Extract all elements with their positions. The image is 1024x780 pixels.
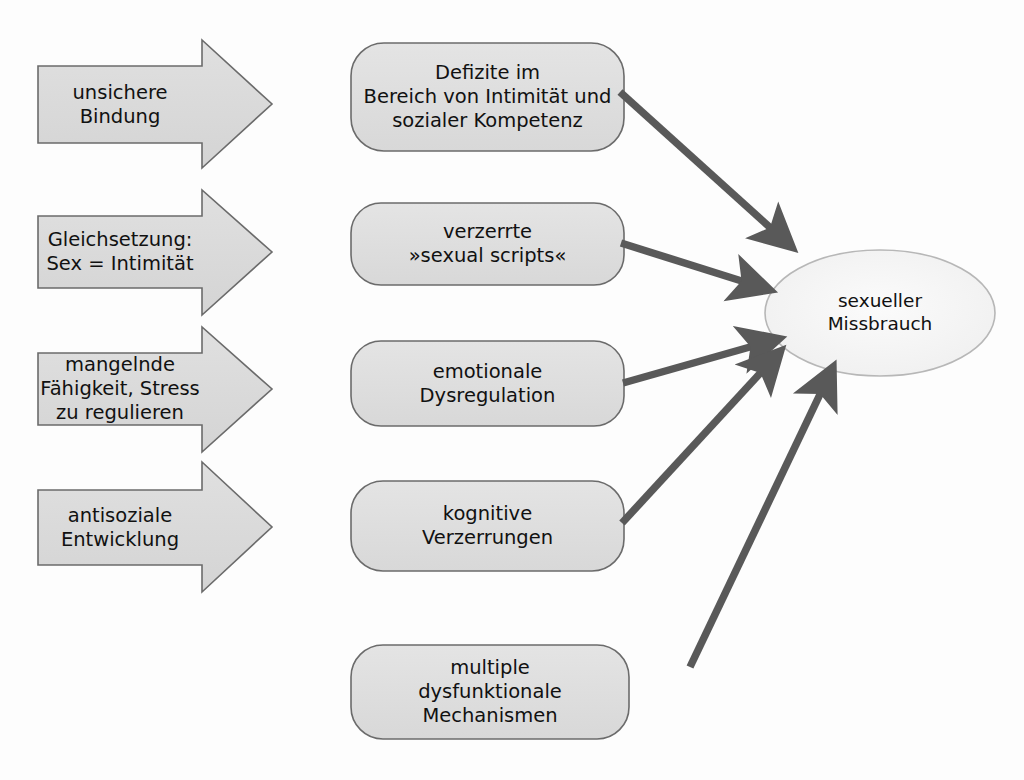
mechanism-box-kognitive-verzerrungen[interactable]	[351, 481, 624, 571]
risk-factor-arrow-gleichsetzung-sex-intimitaet[interactable]	[38, 190, 272, 315]
connector-kognitive-to-missbrauch	[622, 368, 765, 523]
mechanism-box-emotionale-dysregulation[interactable]	[351, 341, 624, 426]
diagram-graphics	[0, 0, 1024, 780]
mechanism-box-verzerrte-sexual-scripts[interactable]	[351, 203, 624, 285]
risk-factor-arrow-mangelnde-faehigkeit-stress[interactable]	[38, 327, 272, 452]
connector-scripts-to-missbrauch	[621, 243, 748, 283]
mechanism-box-defizite-intimitaet[interactable]	[351, 43, 624, 151]
risk-factor-arrow-unsichere-bindung[interactable]	[38, 40, 272, 168]
connector-arrows	[620, 92, 823, 667]
outcome-ellipse-sexueller-missbrauch[interactable]	[765, 250, 995, 376]
connector-defizite-to-missbrauch	[620, 92, 775, 232]
diagram-canvas: unsichere Bindung Gleichsetzung: Sex = I…	[0, 0, 1024, 780]
connector-dysregulation-to-missbrauch	[623, 345, 757, 383]
risk-factor-arrow-antisoziale-entwicklung[interactable]	[38, 462, 272, 592]
mechanism-box-multiple-dysfunktionale-mechanismen[interactable]	[351, 645, 629, 739]
